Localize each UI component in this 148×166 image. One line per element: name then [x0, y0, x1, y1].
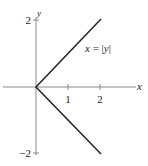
y-tick-label-neg2: −2 — [19, 147, 31, 159]
curve-label: x = |y| — [84, 42, 111, 54]
y-axis-label: y — [36, 8, 41, 18]
y-tick-label-2: 2 — [26, 14, 32, 26]
x-axis-label: x — [136, 80, 142, 92]
chart: 1 2 2 −2 x y x = |y| — [0, 0, 148, 166]
curve-label-eq: = | — [90, 42, 104, 54]
x-tick-label-2: 2 — [97, 93, 103, 105]
curve-label-end: | — [109, 42, 111, 54]
x-tick-label-1: 1 — [65, 93, 71, 105]
